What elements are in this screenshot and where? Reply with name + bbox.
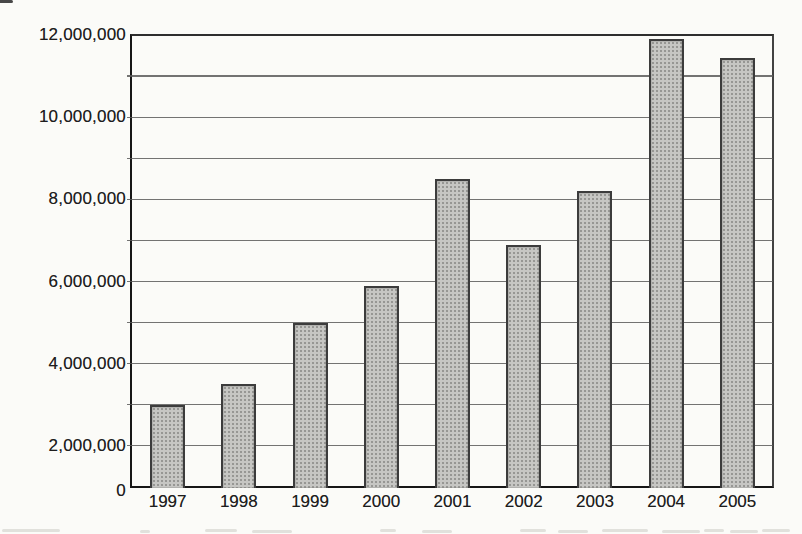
scan-artifact (704, 529, 724, 532)
x-axis-label-1997: 1997 (131, 492, 205, 512)
scan-artifact (730, 530, 758, 533)
x-axis-label-1999: 1999 (273, 492, 347, 512)
bar-1998 (221, 384, 256, 488)
x-axis-label-2001: 2001 (416, 492, 490, 512)
y-axis-tick-label: 0 (14, 480, 126, 502)
scan-artifact (662, 530, 700, 533)
bar-2005 (720, 58, 755, 488)
bar-2000 (364, 286, 399, 488)
y-axis-tick-label: 2,000,000 (14, 435, 126, 457)
x-axis-label-2004: 2004 (629, 492, 703, 512)
bar-chart-figure: 12,000,00010,000,0008,000,0006,000,0004,… (0, 0, 802, 534)
x-axis-label-2000: 2000 (344, 492, 418, 512)
scan-artifact-corner (0, 0, 13, 3)
x-axis-label-2003: 2003 (558, 492, 632, 512)
y-axis-tick-label: 4,000,000 (14, 353, 126, 375)
scan-artifact (205, 529, 237, 532)
scan-artifact (380, 529, 396, 532)
bar-2004 (649, 39, 684, 488)
bar-1997 (150, 405, 185, 488)
y-axis-tick-label: 10,000,000 (14, 106, 126, 128)
scan-artifact (558, 530, 588, 533)
bar-2003 (577, 191, 612, 488)
scan-artifact (2, 529, 60, 532)
x-axis-label-1998: 1998 (202, 492, 276, 512)
scan-artifact (140, 530, 150, 533)
x-axis-label-2002: 2002 (487, 492, 561, 512)
scan-artifact (520, 529, 546, 532)
y-axis-tick-label: 12,000,000 (14, 24, 126, 46)
y-axis-tick-label: 6,000,000 (14, 271, 126, 293)
x-axis-label-2005: 2005 (700, 492, 774, 512)
scan-artifact (422, 530, 452, 533)
scan-artifact (602, 529, 648, 532)
scan-artifact (762, 529, 790, 532)
scan-artifact (252, 530, 292, 533)
y-axis-tick-label: 8,000,000 (14, 188, 126, 210)
bar-2001 (435, 179, 470, 488)
bar-2002 (506, 245, 541, 488)
bar-1999 (293, 323, 328, 488)
